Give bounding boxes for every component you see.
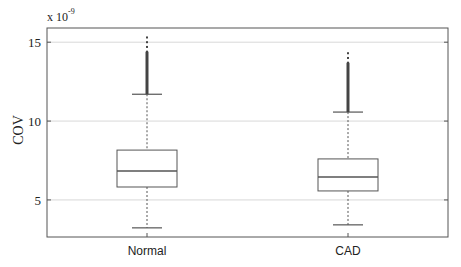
outlier-point [146,36,148,38]
y-tick-label: 10 [28,114,41,129]
box-plot-chart: 51015NormalCAD x 10-9 COV [0,0,461,267]
iqr-box [117,150,177,187]
y-tick-label: 5 [35,193,42,208]
outlier-point [347,57,349,59]
outlier-point [347,52,349,54]
plot-frame [47,28,448,237]
plot-canvas: 51015NormalCAD [0,0,461,267]
outlier-point [146,51,148,53]
x-tick-label-normal: Normal [128,244,167,258]
y-scale-multiplier: x 10-9 [47,9,75,25]
x-tick-label-cad: CAD [335,244,361,258]
outlier-point [146,41,148,43]
outlier-point [347,62,349,64]
y-axis-label: COV [11,115,27,145]
iqr-box [318,159,378,191]
y-tick-label: 15 [28,35,41,50]
outlier-point [146,46,148,48]
